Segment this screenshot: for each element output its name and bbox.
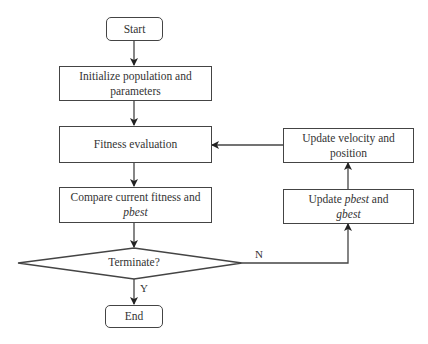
fitness-evaluation-node: Fitness evaluation xyxy=(59,126,212,163)
terminate-label: Terminate? xyxy=(108,256,160,268)
update-best-node: Update pbest and gbest xyxy=(283,189,414,224)
start-label: Start xyxy=(124,22,146,37)
initialize-node: Initialize population and parameters xyxy=(59,66,212,101)
update-velocity-node: Update velocity and position xyxy=(283,128,414,163)
update-best-gbest: gbest xyxy=(336,207,360,222)
update-best-prefix: Update xyxy=(309,193,345,205)
yes-edge-label: Y xyxy=(140,282,148,294)
no-edge-label: N xyxy=(255,248,263,260)
fitness-evaluation-label: Fitness evaluation xyxy=(94,137,177,152)
update-best-and: and xyxy=(369,193,388,205)
end-node: End xyxy=(105,305,163,328)
initialize-label-line1: Initialize population and xyxy=(79,69,191,84)
initialize-label-line2: parameters xyxy=(110,84,160,99)
compare-label-line1: Compare current fitness and xyxy=(71,190,201,205)
compare-label-line2: pbest xyxy=(123,205,147,220)
terminate-decision-label: Terminate? xyxy=(84,256,184,268)
update-best-pbest: pbest xyxy=(345,193,369,205)
start-node: Start xyxy=(106,17,163,41)
update-best-label-line1: Update pbest and xyxy=(309,192,389,207)
update-velocity-label-line1: Update velocity and xyxy=(302,131,395,146)
flowchart-connectors xyxy=(0,0,428,344)
end-label: End xyxy=(125,309,144,324)
update-velocity-label-line2: position xyxy=(330,146,367,161)
compare-node: Compare current fitness and pbest xyxy=(59,187,212,223)
